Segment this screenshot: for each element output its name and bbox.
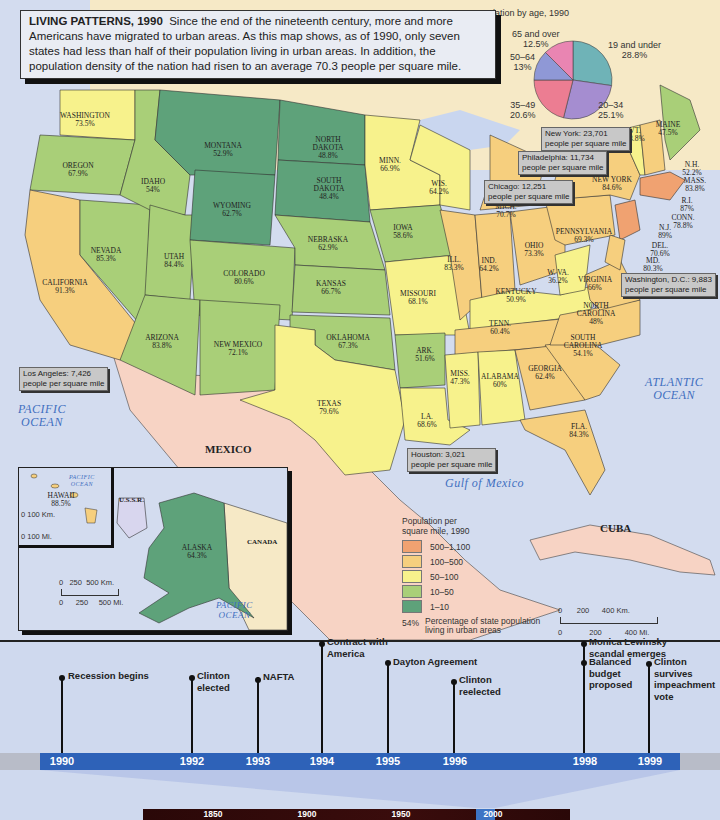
- era-1850: 1850: [204, 809, 223, 820]
- state-ohio: Ohio73.3%: [524, 242, 543, 258]
- event-recession-begins: Recession begins: [68, 670, 149, 682]
- stem-1996: [453, 680, 455, 753]
- callout-new-york: New York: 23,701people per square mile: [541, 127, 630, 151]
- state-utah: Utah84.4%: [164, 253, 184, 269]
- label-pacific-ocean: PACIFICOCEAN: [18, 403, 66, 429]
- state-colorado: Colorado80.6%: [223, 270, 265, 286]
- legend-item-100-500: 100–500: [402, 554, 470, 569]
- title-heading: LIVING PATTERNS, 1990: [29, 15, 163, 27]
- callout-chicago: Chicago: 12,251people per square mile: [484, 180, 573, 204]
- state-louisiana: La.68.6%: [417, 413, 436, 429]
- year-1993: 1993: [246, 755, 270, 767]
- stem-1993: [257, 677, 259, 753]
- event-dot: [319, 641, 325, 647]
- event-dot: [451, 679, 457, 685]
- label-cuba: CUBA: [600, 522, 631, 534]
- state-west-virginia: W. Va.36.2%: [547, 269, 569, 285]
- alaska-scale-km: 0 250 500 Km.: [59, 578, 114, 587]
- event-clinton-reelected: Clinton reelected: [459, 674, 514, 697]
- state-minnesota: Minn.66.9%: [379, 157, 401, 173]
- event-nafta: NAFTA: [263, 671, 294, 683]
- state-missouri: Missouri68.1%: [400, 290, 436, 306]
- state-california: California91.3%: [42, 279, 87, 295]
- timeline-gray-right: [680, 753, 720, 770]
- event-clinton-elected: Clinton elected: [197, 670, 247, 693]
- year-1995: 1995: [376, 755, 400, 767]
- state-maryland: Md.80.3%: [643, 257, 662, 273]
- stem-1992: [191, 676, 193, 753]
- year-1990: 1990: [50, 755, 74, 767]
- state-oklahoma: Oklahoma67.3%: [326, 334, 370, 350]
- pie-label-19-under: 19 and under28.8%: [608, 40, 661, 60]
- state-kansas: Kansas66.7%: [316, 280, 346, 296]
- state-illinois: Ill.83.3%: [444, 256, 463, 272]
- state-south-carolina: South Carolina54.1%: [558, 334, 608, 358]
- alaska-pacific-label: PACIFICOCEAN: [216, 600, 253, 620]
- label-ussr: U.S.S.R.: [119, 496, 144, 504]
- label-gulf-of-mexico: Gulf of Mexico: [445, 477, 524, 490]
- main-scale-km: 0 200 400 Km.: [558, 606, 630, 615]
- label-atlantic-ocean: ATLANTICOCEAN: [645, 376, 703, 402]
- density-legend: Population persquare mile, 1990 500–1,10…: [402, 516, 470, 614]
- event-dot: [646, 661, 652, 667]
- event-dot: [59, 675, 65, 681]
- label-canada-inset: CANADA: [247, 538, 277, 546]
- state-iowa: Iowa58.6%: [393, 224, 413, 240]
- state-north-dakota: North Dakota48.8%: [305, 136, 351, 160]
- state-south-dakota: South Dakota48.4%: [306, 177, 352, 201]
- event-balanced-budget: Balanced budget proposed: [589, 656, 639, 691]
- alaska-scale-mi: 0 250 500 Mi.: [59, 598, 123, 607]
- stem-1994: [321, 642, 323, 753]
- event-dot: [189, 675, 195, 681]
- event-dot: [581, 641, 587, 647]
- state-connecticut: Conn.78.8%: [671, 214, 694, 230]
- event-dot: [581, 660, 587, 666]
- year-1996: 1996: [443, 755, 467, 767]
- state-new-mexico: New Mexico72.1%: [214, 341, 262, 357]
- timeline-gray-left: [0, 753, 40, 770]
- state-hawaii: Hawaii88.5%: [48, 492, 75, 508]
- state-rhode-island: R.I.87%: [680, 197, 694, 213]
- state-pennsylvania: Pennsylvania69.3%: [556, 228, 612, 244]
- hawaii-inset: PACIFICOCEAN Hawaii88.5% 0 100 Km. 0 100…: [19, 468, 114, 548]
- legend-item-50-100: 50–100: [402, 569, 470, 584]
- year-1998: 1998: [573, 755, 597, 767]
- state-massachusetts: Mass.83.8%: [684, 177, 706, 193]
- state-tennessee: Tenn.60.4%: [489, 320, 511, 336]
- main-scale-bar: [560, 617, 658, 624]
- state-maine: Maine47.5%: [656, 121, 681, 137]
- era-1950: 1950: [392, 809, 411, 820]
- state-virginia: Virginia66%: [578, 276, 612, 292]
- year-1994: 1994: [310, 755, 334, 767]
- pie-label-20-34: 20–3425.1%: [598, 100, 624, 120]
- event-dot: [255, 677, 261, 683]
- alaska-hawaii-inset: PACIFICOCEAN Hawaii88.5% 0 100 Km. 0 100…: [18, 467, 288, 631]
- year-1992: 1992: [180, 755, 204, 767]
- stem-1998: [583, 642, 585, 753]
- state-washington: Washington73.5%: [60, 112, 110, 128]
- era-2000: 2000: [484, 809, 503, 820]
- legend-title: Population persquare mile, 1990: [402, 516, 470, 536]
- legend-item-1-10: 1–10: [402, 599, 470, 614]
- event-contract-with-america: Contract with America: [327, 636, 397, 659]
- hawaii-pacific-label: PACIFICOCEAN: [69, 474, 95, 488]
- state-arkansas: Ark.51.6%: [415, 347, 434, 363]
- legend-pct-note: 54% Percentage of state populationliving…: [402, 617, 540, 635]
- map-area: LIVING PATTERNS, 1990 Since the end of t…: [0, 0, 720, 640]
- stem-1995: [387, 661, 389, 753]
- state-wisconsin: Wis.64.2%: [429, 180, 448, 196]
- legend-item-10-50: 10–50: [402, 584, 470, 599]
- state-oregon: Oregon67.9%: [62, 162, 93, 178]
- state-georgia: Georgia62.4%: [528, 365, 562, 381]
- state-wyoming: Wyoming62.7%: [213, 202, 251, 218]
- alaska-scale-bar: [61, 589, 119, 596]
- state-indiana: Ind.64.2%: [479, 257, 498, 273]
- pie-label-50-64: 50–6413%: [510, 52, 535, 72]
- event-dayton-agreement: Dayton Agreement: [393, 656, 477, 668]
- state-nevada: Nevada85.3%: [91, 247, 122, 263]
- title-box: LIVING PATTERNS, 1990 Since the end of t…: [20, 10, 496, 79]
- state-new-hampshire: N.H.52.2%: [682, 161, 701, 177]
- state-florida: Fla.84.3%: [569, 423, 588, 439]
- state-texas: Texas79.6%: [317, 400, 341, 416]
- callout-washington-dc: Washington, D.C.: 9,883people per square…: [621, 273, 716, 297]
